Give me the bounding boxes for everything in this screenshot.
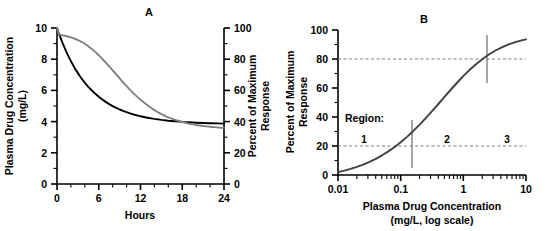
panel-a-right-axis-title-line1: Percent of Maximum bbox=[246, 55, 258, 158]
tick-label: 24 bbox=[218, 192, 230, 204]
tick-label: 60 bbox=[234, 84, 246, 96]
tick-label: 80 bbox=[316, 53, 328, 65]
tick-label: 0 bbox=[41, 178, 47, 190]
tick-label: 100 bbox=[234, 22, 252, 34]
tick-label: 60 bbox=[316, 82, 328, 94]
tick-label: 6 bbox=[41, 84, 47, 96]
panel-a-right-axis-title-line2: Response bbox=[259, 81, 271, 131]
tick-label: 100 bbox=[310, 24, 328, 36]
tick-label: 0 bbox=[234, 178, 240, 190]
tick-label: 40 bbox=[316, 111, 328, 123]
tick-label: 20 bbox=[234, 147, 246, 159]
tick-label: 18 bbox=[176, 192, 188, 204]
panel-b-y-axis-title-line2: Response bbox=[297, 77, 309, 127]
tick-label: 0 bbox=[54, 192, 60, 204]
panel-b-region-label-2: 2 bbox=[444, 134, 450, 145]
pharmacology-figure: A bbox=[0, 0, 547, 231]
panel-b-plot: 0 20 40 60 80 100 0.01 0.1 1 10 Percent … bbox=[275, 0, 547, 231]
panel-a-left-axis-title-line2: (mg/L) bbox=[16, 90, 28, 122]
tick-label: 0 bbox=[322, 169, 328, 181]
tick-label: 12 bbox=[135, 192, 147, 204]
tick-label: 20 bbox=[316, 140, 328, 152]
tick-label: 8 bbox=[41, 53, 47, 65]
panel-b-x-axis-title-line2: (mg/L, log scale) bbox=[391, 214, 474, 226]
panel-b-region-label-3: 3 bbox=[504, 134, 510, 145]
tick-label: 0.1 bbox=[393, 183, 408, 195]
panel-a-x-axis-title: Hours bbox=[125, 209, 155, 221]
tick-label: 2 bbox=[41, 147, 47, 159]
tick-label: 1 bbox=[460, 183, 466, 195]
panel-b-x-axis-title-line1: Plasma Drug Concentration bbox=[363, 200, 501, 212]
panel-a-plot: 0 2 4 6 8 10 0 20 40 60 80 100 0 6 12 bbox=[0, 0, 275, 231]
panel-b: B bbox=[275, 0, 547, 231]
panel-a-left-axis-title-line1: Plasma Drug Concentration bbox=[3, 37, 15, 175]
panel-b-region-caption: Region: bbox=[345, 112, 384, 124]
tick-label: 40 bbox=[234, 116, 246, 128]
panel-b-x-tick-labels: 0.01 0.1 1 10 bbox=[328, 183, 532, 195]
tick-label: 4 bbox=[41, 116, 47, 128]
panel-b-x-major-ticks bbox=[338, 175, 526, 181]
panel-a-left-tick-labels: 0 2 4 6 8 10 bbox=[35, 22, 47, 190]
tick-label: 6 bbox=[96, 192, 102, 204]
tick-label: 10 bbox=[35, 22, 47, 34]
panel-b-y-tick-labels: 0 20 40 60 80 100 bbox=[310, 24, 328, 181]
panel-a-x-tick-labels: 0 6 12 18 24 bbox=[54, 192, 230, 204]
tick-label: 10 bbox=[520, 183, 532, 195]
panel-b-region-label-1: 1 bbox=[361, 134, 367, 145]
panel-a: A bbox=[0, 0, 275, 231]
panel-b-y-axis-title-line1: Percent of Maximum bbox=[284, 51, 296, 154]
tick-label: 80 bbox=[234, 53, 246, 65]
tick-label: 0.01 bbox=[328, 183, 349, 195]
panel-a-x-major-ticks bbox=[57, 184, 224, 190]
